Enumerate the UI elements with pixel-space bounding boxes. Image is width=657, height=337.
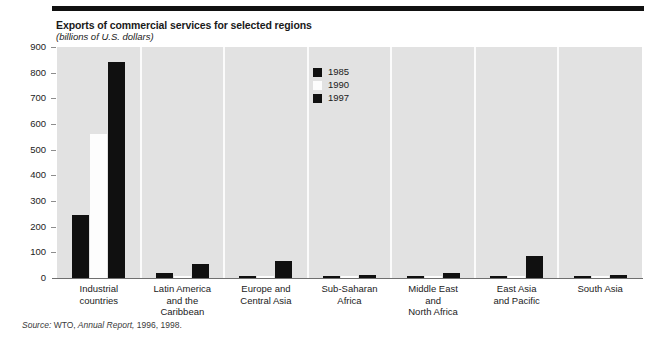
y-axis-tick-mark [51,73,56,74]
y-axis-tick-label: 400 [30,169,46,180]
x-axis-line [52,278,643,279]
y-axis-tick-label: 600 [30,118,46,129]
y-axis-tick-label: 800 [30,67,46,78]
y-axis-tick: 800 [0,73,57,74]
y-axis-tick: 500 [0,150,57,151]
y-axis-tick-label: 200 [30,221,46,232]
bar-group [224,47,308,278]
legend-swatch [313,68,322,77]
y-axis-tick-mark [51,175,56,176]
chart-subtitle-units: (billions of U.S. dollars) [56,31,154,42]
y-axis: 0100200300400500600700800900 [0,47,57,278]
bar-group [475,47,559,278]
bar [192,264,209,278]
legend-swatch [313,94,322,103]
x-axis-category-label-line: countries [57,295,141,307]
bar-group [141,47,225,278]
bar [108,62,125,278]
y-axis-tick-mark [51,150,56,151]
x-axis-category-label-line: Sub-Saharan [308,283,392,295]
y-axis-tick: 700 [0,98,57,99]
bar-group [391,47,475,278]
x-axis-category-label: Europe andCentral Asia [224,283,308,306]
legend-item: 1990 [313,79,393,92]
legend-swatch [313,81,322,90]
x-axis-category-label-line: Africa [308,295,392,307]
y-axis-tick-label: 100 [30,246,46,257]
x-axis-category-label: South Asia [558,283,642,295]
source-years: 1996, 1998. [137,320,182,330]
x-axis-category-label-line: Central Asia [224,295,308,307]
x-axis-category-label-line: and Pacific [475,295,559,307]
y-axis-tick-label: 900 [30,41,46,52]
y-axis-tick: 400 [0,175,57,176]
x-axis-category-label: Latin Americaand theCaribbean [141,283,225,318]
x-axis-category-label: East Asiaand Pacific [475,283,559,306]
legend-label: 1997 [328,92,349,103]
x-axis-category-label-line: and the [141,295,225,307]
x-axis-category-label-line: Caribbean [141,306,225,318]
x-axis-category-label-line: Middle East [391,283,475,295]
y-axis-tick: 600 [0,124,57,125]
x-axis-category-label-line: East Asia [475,283,559,295]
y-axis-tick-label: 500 [30,144,46,155]
y-axis-tick: 0 [0,278,57,279]
bar [526,256,543,278]
y-axis-tick-mark [51,227,56,228]
source-note: Source: WTO, Annual Report, 1996, 1998. [22,320,182,330]
y-axis-tick-label: 0 [41,272,46,283]
y-axis-tick-label: 700 [30,92,46,103]
x-axis-category-label-line: North Africa [391,306,475,318]
chart-title: Exports of commercial services for selec… [56,19,312,31]
legend-item: 1985 [313,66,393,79]
y-axis-tick-mark [51,124,56,125]
x-axis-category-label: Industrialcountries [57,283,141,306]
top-divider-rule [52,6,644,11]
y-axis-tick-mark [51,47,56,48]
y-axis-tick-mark [51,201,56,202]
legend: 198519901997 [313,66,393,105]
y-axis-tick-label: 300 [30,195,46,206]
bar [72,215,89,278]
y-axis-tick: 300 [0,201,57,202]
source-prefix: Source: [22,320,51,330]
source-publisher: WTO, [54,320,76,330]
x-axis-category-label: Middle EastandNorth Africa [391,283,475,318]
x-axis-category-label-line: Europe and [224,283,308,295]
y-axis-tick: 100 [0,252,57,253]
y-axis-tick-mark [51,252,56,253]
y-axis-tick-mark [51,98,56,99]
legend-label: 1990 [328,79,349,90]
x-axis-category-label-line: Latin America [141,283,225,295]
x-axis-category-label: Sub-SaharanAfrica [308,283,392,306]
x-axis-category-label-line: Industrial [57,283,141,295]
bar [275,261,292,278]
legend-label: 1985 [328,66,349,77]
bar-group [558,47,642,278]
legend-item: 1997 [313,92,393,105]
y-axis-tick: 900 [0,47,57,48]
bar-group [57,47,141,278]
y-axis-tick: 200 [0,227,57,228]
source-work: Annual Report, [78,320,135,330]
bar [90,134,107,278]
x-axis-category-label-line: and [391,295,475,307]
x-axis-category-label-line: South Asia [558,283,642,295]
